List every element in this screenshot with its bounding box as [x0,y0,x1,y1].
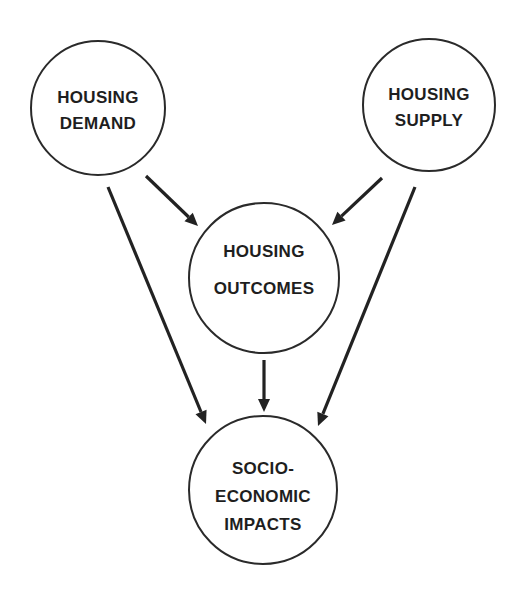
housing-supply-label-line1: HOUSING [388,85,469,104]
arrow-housing-outcomes-to-socio-economic-impacts [258,360,270,412]
node-socio-economic-impacts: SOCIO- ECONOMIC IMPACTS [189,416,337,564]
node-housing-supply: HOUSING SUPPLY [363,39,495,171]
arrow-shaft [146,176,189,217]
housing-supply-label-line2: SUPPLY [395,111,464,130]
housing-demand-label-line2: DEMAND [60,114,136,133]
housing-outcomes-circle [189,203,339,353]
node-housing-outcomes: HOUSING OUTCOMES [189,203,339,353]
impacts-label-line2: ECONOMIC [215,487,311,506]
housing-demand-circle [31,41,165,175]
housing-flow-diagram: HOUSING DEMAND HOUSING SUPPLY HOUSING OU… [0,0,522,597]
arrow-shaft [341,178,382,216]
impacts-label-line1: SOCIO- [232,459,294,478]
housing-supply-circle [363,39,495,171]
impacts-label-line3: IMPACTS [224,515,301,534]
housing-demand-label-line1: HOUSING [57,88,138,107]
node-housing-demand: HOUSING DEMAND [31,41,165,175]
arrowhead-icon [258,399,270,412]
housing-outcomes-label-line1: HOUSING [223,242,304,261]
arrow-housing-demand-to-housing-outcomes [146,176,198,226]
arrow-housing-supply-to-housing-outcomes [332,178,382,225]
housing-outcomes-label-line2: OUTCOMES [214,279,315,298]
